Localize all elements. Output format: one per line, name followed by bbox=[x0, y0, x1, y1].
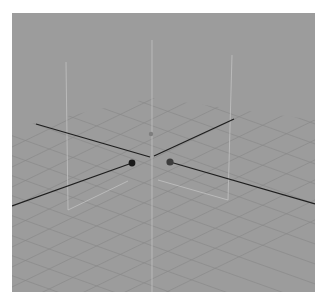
x-axis-front bbox=[12, 163, 132, 206]
x-axis-back bbox=[36, 124, 150, 157]
x-axis-handle-icon[interactable] bbox=[129, 160, 136, 167]
scene-canvas[interactable] bbox=[12, 13, 315, 292]
floor-grid bbox=[12, 13, 315, 292]
bounding-box bbox=[66, 40, 232, 292]
3d-viewport[interactable] bbox=[12, 13, 315, 292]
y-axis-handle-icon[interactable] bbox=[149, 132, 153, 136]
z-axis-handle-icon[interactable] bbox=[166, 158, 173, 165]
